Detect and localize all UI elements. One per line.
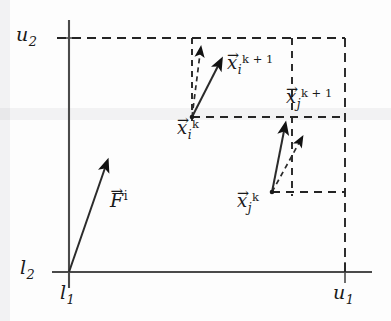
particle-i-vectors	[192, 54, 218, 117]
force-vector-shaft	[69, 168, 105, 272]
point-markers	[190, 115, 275, 195]
guide-lines	[57, 38, 345, 272]
xi-update-solid-vector	[192, 66, 218, 117]
axis-label-l1: l1	[60, 283, 75, 306]
vector-diagram-figure: u2 l2 l1 u1 →Fi →xik + 1 →xik →xjk + 1 →…	[0, 0, 391, 321]
axis-lines	[52, 20, 372, 288]
xi-k-label: →xik	[177, 119, 199, 141]
axis-label-u2: u2	[16, 25, 37, 48]
xi-k-plus-1-label: →xik + 1	[227, 54, 273, 76]
force-vector-label: →Fi	[110, 190, 128, 210]
axis-label-l2: l2	[20, 258, 35, 281]
force-vector	[69, 168, 105, 272]
particle-j-vectors	[272, 131, 299, 192]
xj-k-point	[270, 190, 275, 195]
xj-k-label: →xjk	[237, 192, 259, 214]
axis-label-u1: u1	[333, 283, 354, 306]
diagram-canvas	[0, 0, 391, 321]
xj-k-plus-1-label: →xjk + 1	[286, 88, 332, 110]
